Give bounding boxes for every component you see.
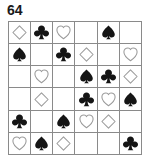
club-icon bbox=[101, 69, 116, 84]
heart-icon bbox=[56, 25, 71, 40]
grid-cell-r3-c6[interactable] bbox=[120, 66, 142, 88]
diamond-icon bbox=[34, 92, 49, 107]
grid-cell-r6-c6[interactable] bbox=[120, 133, 142, 155]
grid-cell-r3-c4[interactable] bbox=[75, 66, 97, 88]
grid-cell-r6-c5[interactable] bbox=[98, 133, 120, 155]
grid-cell-r3-c3[interactable] bbox=[53, 66, 75, 88]
grid-cell-r4-c1[interactable] bbox=[9, 88, 31, 110]
grid-cell-r4-c6[interactable] bbox=[120, 88, 142, 110]
grid-cell-r2-c2[interactable] bbox=[31, 44, 53, 66]
grid-cell-r1-c5[interactable] bbox=[98, 22, 120, 44]
grid-cell-r5-c3[interactable] bbox=[53, 111, 75, 133]
spade-icon bbox=[34, 136, 49, 151]
spade-icon bbox=[12, 47, 27, 62]
grid-cell-r3-c1[interactable] bbox=[9, 66, 31, 88]
grid-cell-r3-c2[interactable] bbox=[31, 66, 53, 88]
grid-cell-r1-c1[interactable] bbox=[9, 22, 31, 44]
club-icon bbox=[123, 136, 138, 151]
heart-icon bbox=[12, 136, 27, 151]
grid-cell-r2-c3[interactable] bbox=[53, 44, 75, 66]
club-icon bbox=[12, 114, 27, 129]
spade-icon bbox=[101, 25, 116, 40]
grid-cell-r5-c2[interactable] bbox=[31, 111, 53, 133]
grid-cell-r4-c5[interactable] bbox=[98, 88, 120, 110]
grid-cell-r1-c6[interactable] bbox=[120, 22, 142, 44]
grid-cell-r6-c2[interactable] bbox=[31, 133, 53, 155]
grid-cell-r5-c4[interactable] bbox=[75, 111, 97, 133]
diamond-icon bbox=[79, 47, 94, 62]
grid-cell-r4-c4[interactable] bbox=[75, 88, 97, 110]
diamond-icon bbox=[123, 69, 138, 84]
grid-cell-r5-c6[interactable] bbox=[120, 111, 142, 133]
grid-cell-r2-c6[interactable] bbox=[120, 44, 142, 66]
grid-cell-r6-c1[interactable] bbox=[9, 133, 31, 155]
grid-cell-r4-c2[interactable] bbox=[31, 88, 53, 110]
club-icon bbox=[79, 92, 94, 107]
diamond-icon bbox=[56, 136, 71, 151]
grid-cell-r4-c3[interactable] bbox=[53, 88, 75, 110]
puzzle-number-label: 64 bbox=[7, 1, 23, 19]
heart-icon bbox=[34, 69, 49, 84]
grid-cell-r3-c5[interactable] bbox=[98, 66, 120, 88]
grid-cell-r5-c5[interactable] bbox=[98, 111, 120, 133]
club-icon bbox=[34, 25, 49, 40]
diamond-icon bbox=[12, 25, 27, 40]
grid-cell-r5-c1[interactable] bbox=[9, 111, 31, 133]
club-icon bbox=[56, 47, 71, 62]
symbol-grid bbox=[8, 21, 142, 155]
diamond-icon bbox=[101, 114, 116, 129]
grid-cell-r6-c4[interactable] bbox=[75, 133, 97, 155]
grid-cell-r1-c2[interactable] bbox=[31, 22, 53, 44]
heart-icon bbox=[101, 92, 116, 107]
spade-icon bbox=[79, 69, 94, 84]
spade-icon bbox=[123, 92, 138, 107]
grid-cell-r2-c1[interactable] bbox=[9, 44, 31, 66]
grid-cell-r1-c4[interactable] bbox=[75, 22, 97, 44]
grid-cell-r2-c5[interactable] bbox=[98, 44, 120, 66]
heart-icon bbox=[123, 47, 138, 62]
grid-cell-r2-c4[interactable] bbox=[75, 44, 97, 66]
grid-cell-r1-c3[interactable] bbox=[53, 22, 75, 44]
spade-icon bbox=[56, 114, 71, 129]
grid-cell-r6-c3[interactable] bbox=[53, 133, 75, 155]
heart-icon bbox=[79, 114, 94, 129]
